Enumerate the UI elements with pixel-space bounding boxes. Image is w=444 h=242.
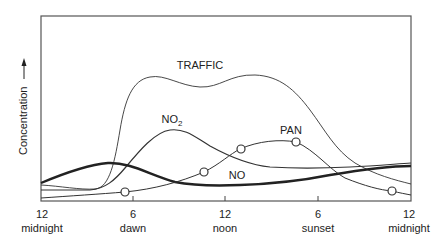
pollutant-concentration-chart: 12 midnight 6 dawn 12 noon 6 sunset 12 m… [0, 0, 444, 242]
y-axis-label-group: Concentration [17, 58, 29, 155]
no-label: NO [229, 169, 246, 181]
no2-label: NO2 [162, 113, 184, 128]
pan-marker-afternoon [292, 138, 300, 146]
plot-frame [41, 16, 411, 201]
pan-marker-dawn [121, 188, 129, 196]
x-axis-ticks [133, 196, 318, 201]
traffic-label: TRAFFIC [177, 59, 223, 71]
pan-marker-noon [237, 145, 245, 153]
tick-label-midnight-end: midnight [388, 222, 430, 234]
x-axis-labels: 12 midnight 6 dawn 12 noon 6 sunset 12 m… [21, 208, 430, 234]
tick-value-midnight-start: 12 [36, 208, 48, 220]
pan-marker-late-morning [200, 168, 208, 176]
no2-label-main: NO [162, 113, 179, 125]
no2-curve [41, 130, 411, 190]
pan-label: PAN [280, 124, 302, 136]
pan-marker-night [388, 187, 396, 195]
tick-value-sunset: 6 [315, 208, 321, 220]
y-axis-label: Concentration [17, 87, 29, 156]
tick-label-noon: noon [213, 222, 237, 234]
up-arrow-icon [22, 58, 27, 79]
tick-value-noon: 12 [219, 208, 231, 220]
tick-value-midnight-end: 12 [403, 208, 415, 220]
tick-label-sunset: sunset [302, 222, 334, 234]
tick-value-dawn: 6 [130, 208, 136, 220]
no2-label-subscript: 2 [178, 119, 183, 128]
tick-label-dawn: dawn [120, 222, 146, 234]
tick-label-midnight-start: midnight [21, 222, 63, 234]
